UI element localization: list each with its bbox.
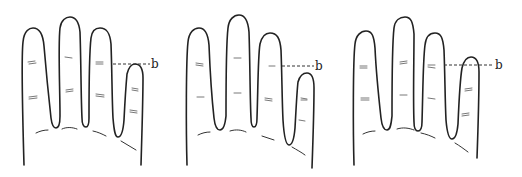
hand-2-palm-line — [198, 130, 305, 155]
hand-1-marker-label: b — [151, 57, 159, 71]
hand-1-creases — [28, 57, 138, 113]
hand-2: b — [186, 15, 323, 168]
hand-3-palm-line — [363, 128, 468, 152]
hand-3: b — [353, 17, 503, 165]
hand-2-outline — [186, 15, 314, 168]
hand-1: b — [22, 17, 159, 165]
hand-2-marker-label: b — [315, 59, 323, 73]
hand-3-outline — [353, 17, 479, 165]
hands-diagram: b b b — [0, 0, 522, 177]
hand-1-palm-line — [36, 128, 136, 151]
hand-3-marker-label: b — [495, 58, 503, 72]
